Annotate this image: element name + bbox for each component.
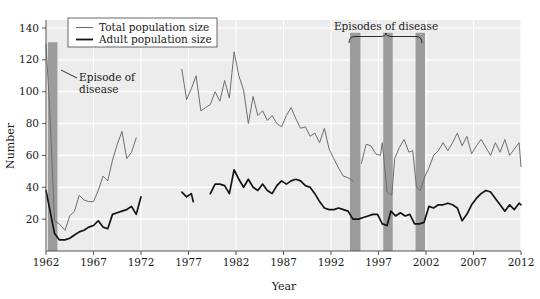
x-axis-label: Year [271, 280, 297, 293]
x-tick-label: 2002 [413, 256, 440, 268]
y-tick-label: 120 [19, 53, 39, 65]
y-tick-label: 80 [26, 117, 39, 129]
legend: Total population size Adult population s… [68, 18, 217, 47]
x-tick-label: 1997 [365, 256, 392, 268]
y-tick-label: 60 [26, 149, 39, 161]
x-tick-label: 2007 [460, 256, 487, 268]
x-tick-label: 1982 [223, 256, 250, 268]
y-tick-label: 20 [26, 213, 39, 225]
y-tick-label: 40 [26, 181, 39, 193]
x-tick-label: 1987 [270, 256, 297, 268]
x-tick-label: 1967 [80, 256, 107, 268]
disease-band [383, 33, 393, 251]
episode-label-line1: Episode of [79, 71, 136, 83]
x-tick-label: 1972 [128, 256, 155, 268]
episode-label-line2: disease [79, 83, 119, 95]
y-tick-label: 100 [19, 85, 39, 97]
x-tick-label: 1992 [318, 256, 345, 268]
episodes-label: Episodes of disease [334, 20, 438, 32]
legend-label-total: Total population size [99, 21, 209, 33]
y-axis-label: Number [4, 122, 17, 169]
disease-band [416, 33, 426, 251]
chart-figure: 2040608010012014019621967197219771982198… [0, 0, 540, 299]
x-tick-label: 2012 [508, 256, 535, 268]
x-tick-label: 1977 [175, 256, 202, 268]
y-tick-label: 140 [19, 22, 39, 34]
legend-label-adult: Adult population size [98, 33, 212, 45]
x-tick-label: 1962 [33, 256, 60, 268]
population-line-chart: 2040608010012014019621967197219771982198… [0, 0, 540, 299]
